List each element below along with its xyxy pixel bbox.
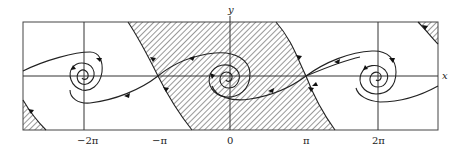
- phase-portrait-diagram: y x −2π −π 0 π 2π: [0, 0, 465, 147]
- spiral-sink-minus-2pi: [23, 52, 158, 103]
- trajectory-saddle-pi-out: [306, 57, 360, 76]
- x-tick-minus-pi: −π: [152, 135, 167, 146]
- y-axis-label: y: [227, 4, 234, 15]
- x-tick-pi: π: [303, 135, 310, 146]
- x-tick-minus-2pi: −2π: [77, 135, 99, 146]
- x-tick-0: 0: [227, 135, 233, 146]
- hatched-region-lower-left: [23, 100, 46, 130]
- x-tick-2pi: 2π: [372, 135, 385, 146]
- arrow-icon: [312, 82, 318, 86]
- x-axis-label: x: [442, 70, 448, 81]
